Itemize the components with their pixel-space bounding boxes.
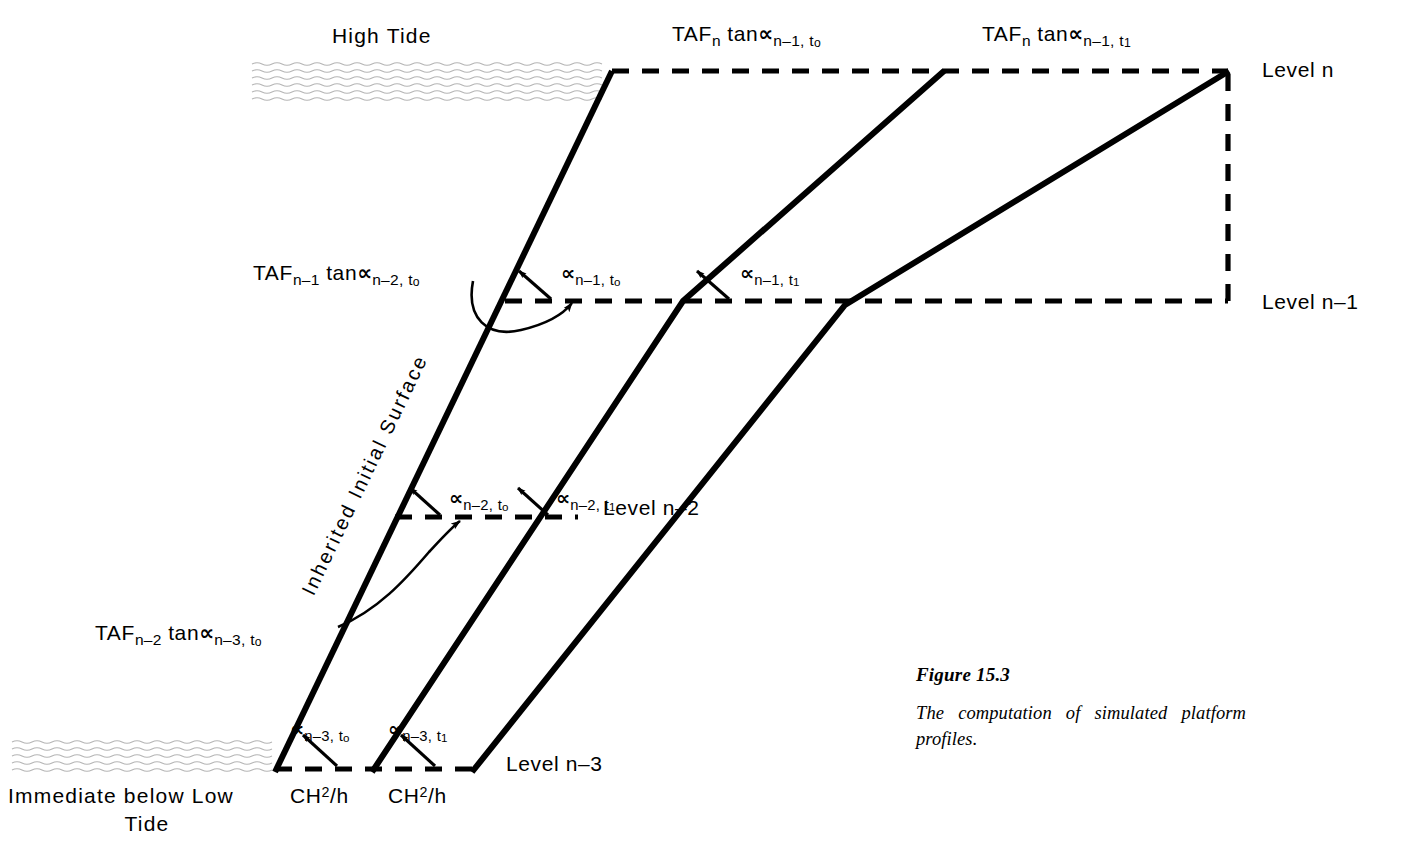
taf-sub-index: n–3, t	[214, 631, 255, 648]
angle-sub-index: n–2, t	[463, 497, 502, 513]
level-n-2-label: Level n–2	[603, 496, 699, 520]
angle-sub-index: n–3, t	[304, 728, 343, 744]
taf-sub-index: n–1, t	[1083, 32, 1124, 49]
alpha-glyph: ∝	[1068, 22, 1083, 46]
angle-sub-index: n–1, t	[754, 272, 793, 288]
angle-alpha-n-1-t1-label: ∝n–1, t1	[740, 262, 800, 289]
figure-caption-body: The computation of simulated platform pr…	[916, 700, 1246, 753]
alpha-glyph: ∝	[199, 621, 214, 645]
angle-sub-time: o	[502, 500, 509, 513]
profile-line-t1	[372, 71, 944, 772]
angle-alpha-n-3-t1-label: ∝n–3, t1	[388, 718, 448, 745]
angle-sub-index: n–1, t	[575, 272, 614, 288]
taf-n-2-tan-alpha-n-3-to-label: TAFn–2 tan∝n–3, to	[95, 621, 262, 649]
taf-tan: tan	[162, 621, 199, 644]
taf-sub-index: n–1, t	[773, 32, 814, 49]
angle-sub-time: 1	[793, 275, 800, 288]
taf-n-2-leader-curve	[338, 521, 460, 627]
taf-n-1-tan-alpha-n-2-to-label: TAFn–1 tan∝n–2, to	[253, 261, 420, 289]
level-n-3-label: Level n–3	[506, 752, 602, 776]
taf-sub-time: o	[814, 36, 821, 50]
level-n-1-label: Level n–1	[1262, 290, 1358, 314]
level-n-label: Level n	[1262, 58, 1334, 82]
alpha-glyph: ∝	[758, 22, 773, 46]
alpha-glyph: ∝	[357, 261, 372, 285]
angle-alpha-n-1-to-label: ∝n–1, to	[561, 262, 621, 289]
low-tide-label-line-2: Tide	[8, 812, 286, 836]
profile-line-t2	[472, 71, 1229, 772]
taf-tan: tan	[721, 22, 758, 45]
ch-superscript: 2	[322, 784, 331, 800]
high-tide-water-hatch	[252, 63, 602, 101]
alpha-glyph: ∝	[740, 261, 754, 285]
ch-superscript: 2	[420, 784, 429, 800]
taf-sub-n: n	[712, 32, 721, 49]
alpha-glyph: ∝	[388, 717, 402, 741]
taf-sub-n: n–2	[135, 631, 162, 648]
ch-suffix: /h	[428, 784, 447, 807]
alpha-glyph: ∝	[556, 486, 570, 510]
taf-prefix: TAF	[253, 261, 293, 284]
figure-caption-title: Figure 15.3	[916, 664, 1010, 686]
ch-prefix: CH	[290, 784, 322, 807]
erosion-rate-label-left: CH2/h	[290, 784, 349, 809]
taf-sub-time: o	[255, 635, 262, 649]
angle-alpha-n-2-to-label: ∝n–2, to	[449, 487, 509, 514]
taf-n-tan-alpha-n-1-to-label: TAFn tan∝n–1, to	[672, 22, 821, 50]
alpha-glyph: ∝	[449, 486, 463, 510]
erosion-rate-label-right: CH2/h	[388, 784, 447, 809]
ch-prefix: CH	[388, 784, 420, 807]
figure-root: High Tide TAFn tan∝n–1, to TAFn tan∝n–1,…	[0, 0, 1415, 854]
taf-sub-time: 1	[1124, 36, 1131, 50]
taf-prefix: TAF	[95, 621, 135, 644]
angle-sub-index: n–3, t	[402, 728, 441, 744]
low-tide-label-line-1: Immediate below Low	[8, 784, 234, 808]
high-tide-label: High Tide	[332, 24, 432, 48]
taf-n-tan-alpha-n-1-t1-label: TAFn tan∝n–1, t1	[982, 22, 1131, 50]
taf-sub-n: n–1	[293, 271, 320, 288]
ch-suffix: /h	[330, 784, 349, 807]
alpha-glyph: ∝	[290, 717, 304, 741]
angle-arrow-n2-to	[410, 488, 440, 515]
taf-sub-index: n–2, t	[372, 271, 413, 288]
taf-sub-n: n	[1022, 32, 1031, 49]
angle-arrow-n2-t1	[518, 488, 548, 515]
taf-n-1-leader-curve	[472, 281, 572, 332]
angle-alpha-n-3-to-label: ∝n–3, to	[290, 718, 350, 745]
taf-prefix: TAF	[672, 22, 712, 45]
angle-sub-time: 1	[441, 731, 448, 744]
angle-sub-time: o	[614, 275, 621, 288]
profile-lines	[275, 71, 1229, 772]
taf-prefix: TAF	[982, 22, 1022, 45]
low-tide-water-hatch	[12, 741, 272, 772]
taf-tan: tan	[320, 261, 357, 284]
angle-arrow-n1-to	[519, 271, 551, 299]
alpha-glyph: ∝	[561, 261, 575, 285]
taf-tan: tan	[1031, 22, 1068, 45]
angle-sub-time: o	[343, 731, 350, 744]
taf-sub-time: o	[413, 275, 420, 289]
